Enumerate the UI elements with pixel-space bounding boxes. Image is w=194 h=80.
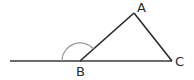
label-b: B: [76, 64, 85, 79]
exterior-angle-arc: [62, 43, 94, 61]
label-c: C: [175, 54, 184, 69]
triangle-diagram: A B C: [0, 0, 194, 80]
side-ab: [80, 13, 134, 61]
side-ac: [134, 13, 172, 61]
label-a: A: [137, 0, 146, 15]
